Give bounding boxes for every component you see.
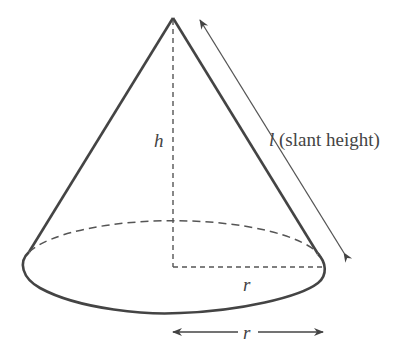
base-back-edge (29, 221, 320, 255)
cone-diagram: h l (slant height) r r (0, 0, 419, 350)
radius-inner-label: r (243, 274, 251, 295)
cone-left-side (29, 18, 173, 252)
base-front-edge (23, 252, 325, 313)
height-label: h (154, 130, 164, 151)
slant-text-label: (slant height) (274, 129, 380, 151)
radius-dim-label: r (243, 322, 251, 343)
slant-height-label: l (slant height) (269, 129, 380, 151)
